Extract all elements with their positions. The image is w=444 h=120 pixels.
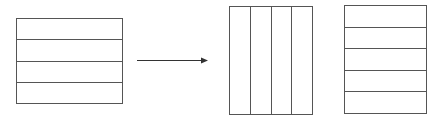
left-box-four-rows <box>17 19 123 104</box>
box-outline <box>345 6 427 114</box>
arrow-right-icon <box>137 58 208 64</box>
arrow-head <box>201 58 208 64</box>
right-box-five-rows <box>345 6 427 114</box>
diagram-canvas <box>0 0 444 120</box>
middle-box-four-columns <box>230 7 313 115</box>
